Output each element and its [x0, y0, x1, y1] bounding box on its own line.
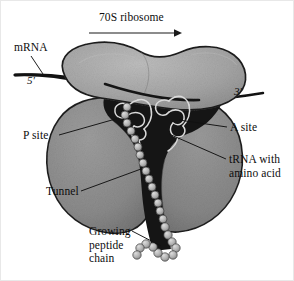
label-five-prime: 5′ — [27, 74, 35, 88]
label-mrna: mRNA — [14, 41, 48, 55]
label-trna-line1: tRNA with — [229, 153, 280, 165]
label-growing-line3: chain — [89, 252, 114, 264]
label-trna-line2: amino acid — [229, 167, 281, 179]
label-growing-line1: Growing — [89, 225, 131, 237]
label-three-prime: 3′ — [234, 85, 242, 99]
label-trna-with-amino-acid: tRNA withamino acid — [229, 153, 281, 180]
translation-direction-arrow — [89, 29, 182, 37]
label-growing-line2: peptide — [89, 239, 124, 251]
label-70s-ribosome: 70S ribosome — [99, 11, 164, 25]
label-p-site: P site — [23, 129, 48, 143]
label-tunnel: Tunnel — [46, 185, 79, 199]
label-growing-peptide-chain: Growingpeptidechain — [89, 225, 131, 266]
ribosome-translation-figure: 70S ribosome mRNA 5′ 3′ P site A site tR… — [0, 0, 294, 281]
label-a-site: A site — [230, 121, 257, 135]
